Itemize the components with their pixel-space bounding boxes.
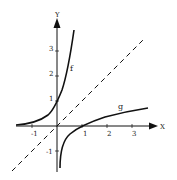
- line-y-equals-x: [12, 39, 144, 171]
- x-tick-label: 2: [107, 130, 111, 138]
- y-tick-label: 2: [49, 70, 53, 78]
- curve-g-label: g: [118, 102, 123, 111]
- x-tick-label: 1: [83, 130, 87, 138]
- y-axis-arrow-icon: [54, 18, 61, 28]
- x-axis-label: X: [160, 123, 165, 131]
- curve-f: [16, 30, 74, 125]
- x-tick-label: 3: [132, 130, 136, 138]
- y-axis-label: Y: [54, 11, 60, 19]
- curve-g: [60, 108, 148, 168]
- x-axis-arrow-icon: [149, 123, 158, 130]
- function-graph: X Y -1 1 2 3 3 2 1 -1 f g: [0, 0, 177, 180]
- y-tick-label: 1: [49, 95, 53, 103]
- y-tick-label: 3: [49, 45, 53, 53]
- curve-f-label: f: [70, 64, 74, 73]
- y-tick-label: -1: [46, 148, 53, 156]
- x-tick-label: -1: [31, 130, 38, 138]
